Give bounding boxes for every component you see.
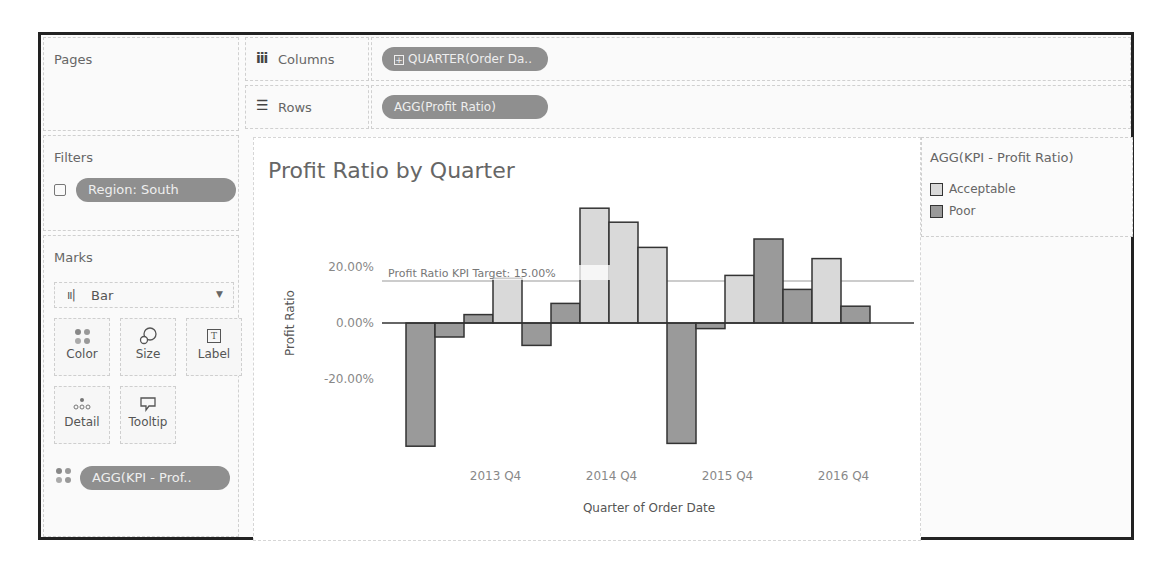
legend-swatch-acceptable <box>930 183 943 196</box>
columns-pill-quarter[interactable]: +QUARTER(Order Da.. <box>382 47 548 71</box>
rows-shelf-label-area: ☰ Rows <box>245 85 369 129</box>
bar-2016-Q3[interactable] <box>812 259 841 323</box>
size-icon <box>139 327 157 345</box>
bar-2014-Q1[interactable] <box>522 323 551 345</box>
chevron-down-icon: ▼ <box>216 289 223 299</box>
tableau-worksheet: Pages iii Columns +QUARTER(Order Da.. ☰ … <box>38 32 1134 540</box>
bar-2013-Q2[interactable] <box>435 323 464 337</box>
detail-icon <box>73 397 91 411</box>
y-tick-label: 20.00% <box>328 260 374 274</box>
x-tick-label: 2014 Q4 <box>586 469 637 483</box>
columns-shelf[interactable]: +QUARTER(Order Da.. <box>371 37 1131 81</box>
y-tick-label: -20.00% <box>324 372 374 386</box>
bar-2013-Q3[interactable] <box>464 315 493 323</box>
bar-chart: Profit Ratio20.00%0.00%-20.00%Profit Rat… <box>254 138 922 542</box>
pages-shelf[interactable]: Pages <box>43 37 239 131</box>
marks-color-field-pill[interactable]: AGG(KPI - Prof.. <box>80 466 230 490</box>
bar-2016-Q4[interactable] <box>841 306 870 323</box>
marks-card: Marks ıı| Bar ▼ Color Size T Label Detai… <box>43 235 239 537</box>
legend-item-acceptable[interactable]: Acceptable <box>930 182 1016 196</box>
x-axis-title: Quarter of Order Date <box>583 501 715 515</box>
columns-icon: iii <box>256 50 267 66</box>
rows-icon: ☰ <box>256 97 269 113</box>
columns-label: Columns <box>278 52 335 67</box>
bar-2016-Q1[interactable] <box>754 239 783 323</box>
filters-shelf[interactable]: Filters Region: South <box>43 135 239 231</box>
legend-swatch-poor <box>930 205 943 218</box>
marks-size-button[interactable]: Size <box>120 318 176 376</box>
filters-label: Filters <box>54 150 93 165</box>
marks-detail-button[interactable]: Detail <box>54 386 110 444</box>
bar-2015-Q2[interactable] <box>667 323 696 443</box>
marks-color-button[interactable]: Color <box>54 318 110 376</box>
rows-pill-profit-ratio[interactable]: AGG(Profit Ratio) <box>382 95 548 119</box>
filter-icon <box>54 184 66 196</box>
color-legend: AGG(KPI - Profit Ratio) Acceptable Poor <box>921 137 1133 237</box>
bar-2014-Q2[interactable] <box>551 303 580 323</box>
bar-2016-Q2[interactable] <box>783 289 812 323</box>
color-icon <box>75 329 90 344</box>
bar-2014-Q4[interactable] <box>609 222 638 323</box>
filter-pill-region[interactable]: Region: South <box>76 178 236 202</box>
plus-box-icon: + <box>394 55 404 65</box>
bar-2013-Q4[interactable] <box>493 278 522 323</box>
tooltip-icon <box>139 396 157 412</box>
y-axis-title: Profit Ratio <box>283 290 297 356</box>
marks-tooltip-button[interactable]: Tooltip <box>120 386 176 444</box>
mark-type-dropdown[interactable]: ıı| Bar ▼ <box>54 282 234 308</box>
marks-label-button[interactable]: T Label <box>186 318 242 376</box>
columns-shelf-label-area: iii Columns <box>245 37 369 81</box>
marks-label: Marks <box>54 250 93 265</box>
bar-2015-Q3[interactable] <box>696 323 725 329</box>
x-tick-label: 2015 Q4 <box>702 469 753 483</box>
x-tick-label: 2016 Q4 <box>818 469 869 483</box>
legend-item-poor[interactable]: Poor <box>930 204 975 218</box>
rows-shelf[interactable]: AGG(Profit Ratio) <box>371 85 1131 129</box>
x-tick-label: 2013 Q4 <box>470 469 521 483</box>
bar-chart-icon: ıı| <box>67 288 75 302</box>
bar-2015-Q1[interactable] <box>638 247 667 323</box>
chart-view: Profit Ratio by Quarter Profit Ratio20.0… <box>253 137 921 541</box>
rows-label: Rows <box>278 100 312 115</box>
label-icon: T <box>207 329 221 343</box>
pages-label: Pages <box>54 52 92 67</box>
bar-2013-Q1[interactable] <box>406 323 435 446</box>
bar-2015-Q4[interactable] <box>725 275 754 323</box>
kpi-reference-label: Profit Ratio KPI Target: 15.00% <box>388 267 556 280</box>
legend-title: AGG(KPI - Profit Ratio) <box>930 150 1074 165</box>
color-icon <box>56 468 71 483</box>
y-tick-label: 0.00% <box>336 316 374 330</box>
